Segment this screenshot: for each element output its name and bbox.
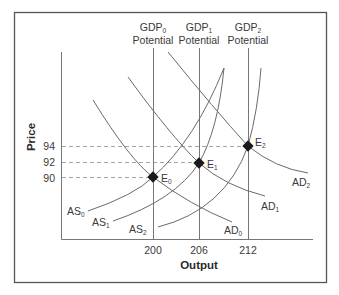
ad0-label: AD0 bbox=[224, 224, 243, 237]
x-axis-title: Output bbox=[180, 259, 218, 271]
output-tick-212: 212 bbox=[239, 244, 257, 256]
e0-label: E0 bbox=[161, 172, 172, 185]
price-tick-94: 94 bbox=[43, 140, 55, 152]
gdp1-label: GDP1 bbox=[186, 21, 213, 34]
price-tick-92: 92 bbox=[43, 156, 55, 168]
ad2-curve bbox=[168, 52, 308, 173]
gdp0-potential-label: Potential bbox=[133, 34, 174, 46]
as0-curve bbox=[88, 68, 224, 211]
as0-label: AS0 bbox=[67, 205, 85, 218]
gdp0-label: GDP0 bbox=[140, 21, 167, 34]
gdp2-potential-label: Potential bbox=[228, 34, 269, 46]
price-tick-90: 90 bbox=[43, 172, 55, 184]
gdp2-label: GDP2 bbox=[235, 21, 262, 34]
ad1-label: AD1 bbox=[261, 200, 280, 213]
output-tick-200: 200 bbox=[144, 244, 162, 256]
as1-label: AS1 bbox=[92, 216, 110, 229]
as1-curve bbox=[113, 68, 224, 221]
output-tick-206: 206 bbox=[190, 244, 208, 256]
gdp1-potential-label: Potential bbox=[179, 34, 220, 46]
e1-label: E1 bbox=[207, 158, 218, 171]
as2-label: AS2 bbox=[129, 223, 147, 236]
ad2-label: AD2 bbox=[292, 176, 311, 189]
y-axis-title: Price bbox=[25, 123, 37, 151]
ad-as-diagram: GDP0 Potential GDP1 Potential GDP2 Poten… bbox=[0, 0, 339, 295]
e2-label: E2 bbox=[255, 136, 266, 149]
